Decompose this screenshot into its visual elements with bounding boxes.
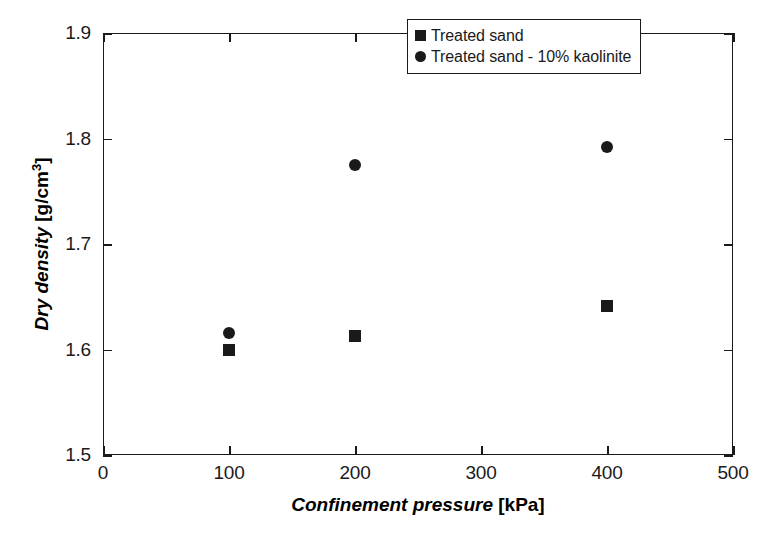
y-tick-label: 1.7 <box>65 233 91 255</box>
legend-item-label: Treated sand <box>431 27 524 45</box>
x-tick <box>607 446 609 455</box>
x-tick-label: 0 <box>98 462 108 484</box>
y-axis-title-units: [g/cm3] <box>31 158 52 222</box>
y-axis-title: Dry density [g/cm3] <box>31 158 53 331</box>
legend-item: Treated sand <box>415 25 631 46</box>
y-tick-label: 1.5 <box>65 444 91 466</box>
x-axis-title-units: [kPa] <box>498 494 544 515</box>
data-point <box>601 300 613 312</box>
y-tick-label: 1.6 <box>65 339 91 361</box>
y-axis-title-name: Dry density <box>31 227 52 330</box>
x-tick <box>481 446 483 455</box>
legend-item: Treated sand - 10% kaolinite <box>415 46 631 67</box>
data-point <box>223 344 235 356</box>
x-tick-top <box>229 33 231 42</box>
data-point <box>223 327 235 339</box>
y-units-suffix: ] <box>31 158 52 164</box>
y-tick <box>103 244 112 246</box>
x-tick <box>229 446 231 455</box>
y-units-prefix: [g/cm <box>31 171 52 222</box>
x-tick-label: 200 <box>339 462 370 484</box>
y-tick <box>103 139 112 141</box>
y-tick-right <box>724 139 733 141</box>
x-tick-label: 500 <box>717 462 748 484</box>
legend-marker-glyph <box>415 51 426 62</box>
data-point <box>349 159 361 171</box>
data-point <box>349 330 361 342</box>
y-tick-right <box>724 455 733 457</box>
x-tick-label: 300 <box>465 462 496 484</box>
legend-circle-icon <box>415 51 431 62</box>
y-units-exponent: 3 <box>29 164 44 171</box>
y-tick-right <box>724 244 733 246</box>
x-axis-title: Confinement pressure [kPa] <box>291 494 544 516</box>
y-tick-right <box>724 33 733 35</box>
x-tick-label: 400 <box>591 462 622 484</box>
legend-marker-glyph <box>415 30 426 41</box>
chart-figure: 01002003004005001.51.61.71.81.9 Confinem… <box>0 0 777 539</box>
y-tick <box>103 455 112 457</box>
y-tick <box>103 350 112 352</box>
legend-item-label: Treated sand - 10% kaolinite <box>431 48 631 66</box>
plot-area <box>103 33 733 455</box>
x-axis-title-name: Confinement pressure <box>291 494 493 515</box>
x-tick <box>355 446 357 455</box>
legend: Treated sandTreated sand - 10% kaolinite <box>407 19 641 74</box>
data-point <box>601 141 613 153</box>
x-tick <box>103 446 105 455</box>
x-tick <box>733 446 735 455</box>
y-tick-label: 1.9 <box>65 22 91 44</box>
x-tick-top <box>355 33 357 42</box>
y-tick-right <box>724 350 733 352</box>
legend-square-icon <box>415 30 431 41</box>
x-tick-top <box>733 33 735 42</box>
x-tick-label: 100 <box>213 462 244 484</box>
y-tick <box>103 33 112 35</box>
y-tick-label: 1.8 <box>65 128 91 150</box>
